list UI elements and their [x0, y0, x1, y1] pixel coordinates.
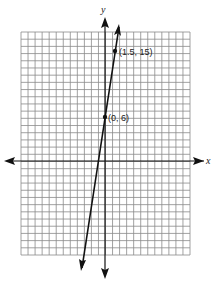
coordinate-plane: x y (0, 6) (1.5, 15) [0, 0, 212, 282]
x-axis-label: x [205, 155, 211, 166]
y-axis-label: y [100, 4, 106, 15]
point-label: (0, 6) [108, 113, 129, 123]
point-1.5-15: (1.5, 15) [113, 47, 153, 57]
point-label: (1.5, 15) [119, 47, 153, 57]
point-0-6: (0, 6) [103, 113, 129, 123]
